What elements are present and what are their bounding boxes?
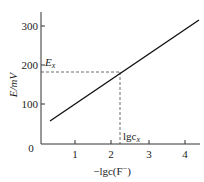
x-axis-label: −lgc(F−) [93,164,131,178]
y-tick-100: 100 [22,98,39,110]
x-tick-2: 2 [108,148,114,160]
y-tick-200: 200 [22,59,39,71]
y-tick-300: 300 [22,20,39,32]
calibration-chart: 0 100 200 300 1 2 3 4 E/mV −lgc(F−) Ex l… [0,0,204,182]
x-tick-1: 1 [72,148,78,160]
y-tick-0: 0 [28,142,34,154]
y-axis-label: E/mV [7,72,19,99]
x-tick-4: 4 [182,148,188,160]
x-tick-3: 3 [146,148,152,160]
ex-label: Ex [44,56,56,70]
calibration-line [50,20,199,121]
lgcx-label: lgcx [123,130,140,144]
